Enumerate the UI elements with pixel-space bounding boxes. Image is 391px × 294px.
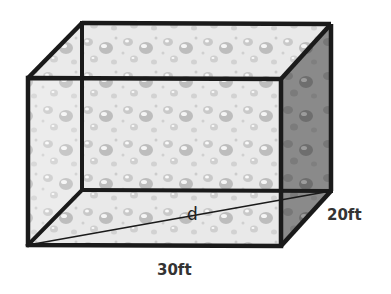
width-label: 20ft (327, 208, 362, 223)
length-label: 30ft (157, 263, 192, 278)
box-diagram (0, 0, 391, 294)
diagonal-label: d (187, 206, 198, 223)
front-face (28, 78, 281, 246)
